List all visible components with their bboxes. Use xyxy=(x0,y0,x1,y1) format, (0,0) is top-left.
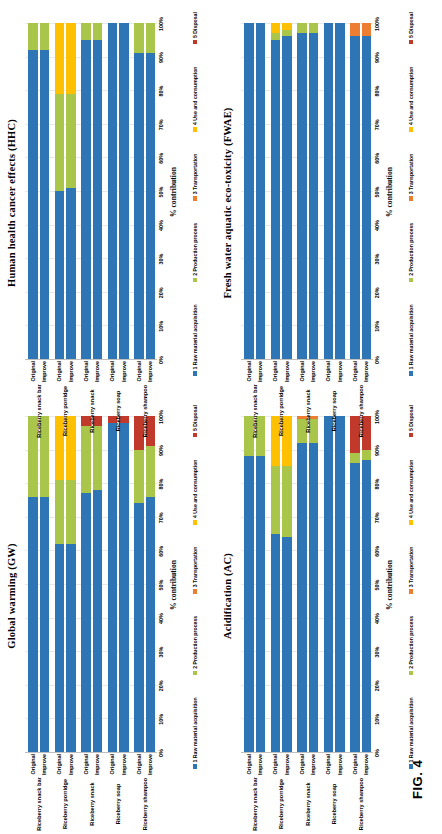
bar-segment[interactable] xyxy=(81,40,91,359)
bar-segment[interactable] xyxy=(297,443,307,752)
stacked-bar[interactable] xyxy=(309,416,319,752)
bar-segment[interactable] xyxy=(256,456,266,752)
bar-segment[interactable] xyxy=(244,23,254,359)
stacked-bar[interactable] xyxy=(271,416,281,752)
stacked-bar[interactable] xyxy=(108,23,118,359)
stacked-bar[interactable] xyxy=(324,23,334,359)
stacked-bar[interactable] xyxy=(55,416,65,752)
legend-item[interactable]: 3 Transportation xyxy=(408,547,414,594)
bar-segment[interactable] xyxy=(66,188,76,359)
stacked-bar[interactable] xyxy=(146,416,156,752)
bar-segment[interactable] xyxy=(146,446,156,496)
stacked-bar[interactable] xyxy=(28,416,38,752)
bar-segment[interactable] xyxy=(335,23,345,359)
bar-segment[interactable] xyxy=(28,50,38,359)
legend-item[interactable]: 1 Raw material acquisition xyxy=(192,304,198,376)
bar-segment[interactable] xyxy=(335,416,345,752)
bar-segment[interactable] xyxy=(244,456,254,752)
bar-segment[interactable] xyxy=(282,466,292,537)
stacked-bar[interactable] xyxy=(350,23,360,359)
stacked-bar[interactable] xyxy=(324,416,334,752)
stacked-bar[interactable] xyxy=(362,416,372,752)
bar-segment[interactable] xyxy=(297,33,307,359)
bar-segment[interactable] xyxy=(309,23,319,33)
bar-segment[interactable] xyxy=(134,53,144,359)
bar-segment[interactable] xyxy=(40,23,50,50)
bar-segment[interactable] xyxy=(271,466,281,533)
bar-segment[interactable] xyxy=(28,497,38,752)
bar-segment[interactable] xyxy=(93,23,103,40)
bar-segment[interactable] xyxy=(271,23,281,33)
bar-segment[interactable] xyxy=(146,497,156,752)
bar-segment[interactable] xyxy=(28,23,38,50)
bar-segment[interactable] xyxy=(134,23,144,53)
bar-segment[interactable] xyxy=(362,23,372,36)
bar-segment[interactable] xyxy=(350,23,360,36)
stacked-bar[interactable] xyxy=(119,416,129,752)
bar-segment[interactable] xyxy=(66,23,76,94)
legend-item[interactable]: 5 Disposal xyxy=(192,405,198,437)
bar-segment[interactable] xyxy=(40,50,50,359)
bar-segment[interactable] xyxy=(93,40,103,359)
bar-segment[interactable] xyxy=(324,23,334,359)
stacked-bar[interactable] xyxy=(55,23,65,359)
stacked-bar[interactable] xyxy=(93,416,103,752)
bar-segment[interactable] xyxy=(81,23,91,40)
bar-segment[interactable] xyxy=(40,497,50,752)
bar-segment[interactable] xyxy=(66,94,76,188)
bar-segment[interactable] xyxy=(350,36,360,359)
bar-segment[interactable] xyxy=(55,94,65,191)
legend-item[interactable]: 4 Use and consumption xyxy=(408,67,414,132)
bar-segment[interactable] xyxy=(119,23,129,359)
stacked-bar[interactable] xyxy=(309,23,319,359)
legend-item[interactable]: 5 Disposal xyxy=(192,12,198,44)
bar-segment[interactable] xyxy=(256,23,266,359)
bar-segment[interactable] xyxy=(66,544,76,752)
stacked-bar[interactable] xyxy=(66,23,76,359)
stacked-bar[interactable] xyxy=(335,23,345,359)
bar-segment[interactable] xyxy=(146,53,156,359)
bar-segment[interactable] xyxy=(362,450,372,460)
stacked-bar[interactable] xyxy=(134,416,144,752)
stacked-bar[interactable] xyxy=(244,416,254,752)
bar-segment[interactable] xyxy=(271,40,281,359)
bar-segment[interactable] xyxy=(362,460,372,752)
stacked-bar[interactable] xyxy=(40,416,50,752)
stacked-bar[interactable] xyxy=(134,23,144,359)
legend-item[interactable]: 5 Disposal xyxy=(408,405,414,437)
bar-segment[interactable] xyxy=(282,36,292,359)
bar-segment[interactable] xyxy=(66,480,76,544)
stacked-bar[interactable] xyxy=(335,416,345,752)
bar-segment[interactable] xyxy=(81,493,91,752)
legend-item[interactable]: 3 Transportation xyxy=(408,154,414,201)
stacked-bar[interactable] xyxy=(256,416,266,752)
stacked-bar[interactable] xyxy=(28,23,38,359)
legend-item[interactable]: 3 Transportation xyxy=(192,154,198,201)
bar-segment[interactable] xyxy=(282,537,292,752)
bar-segment[interactable] xyxy=(55,480,65,544)
bar-segment[interactable] xyxy=(271,534,281,752)
bar-segment[interactable] xyxy=(93,490,103,752)
bar-segment[interactable] xyxy=(134,503,144,752)
stacked-bar[interactable] xyxy=(93,23,103,359)
bar-segment[interactable] xyxy=(282,23,292,30)
stacked-bar[interactable] xyxy=(81,416,91,752)
stacked-bar[interactable] xyxy=(297,416,307,752)
legend-item[interactable]: 2 Production process xyxy=(408,223,414,283)
stacked-bar[interactable] xyxy=(282,23,292,359)
legend-item[interactable]: 4 Use and consumption xyxy=(408,460,414,525)
stacked-bar[interactable] xyxy=(66,416,76,752)
bar-segment[interactable] xyxy=(350,463,360,752)
bar-segment[interactable] xyxy=(324,416,334,752)
stacked-bar[interactable] xyxy=(271,23,281,359)
bar-segment[interactable] xyxy=(282,30,292,37)
bar-segment[interactable] xyxy=(362,36,372,359)
legend-item[interactable]: 2 Production process xyxy=(408,616,414,676)
bar-segment[interactable] xyxy=(297,23,307,33)
stacked-bar[interactable] xyxy=(350,416,360,752)
stacked-bar[interactable] xyxy=(108,416,118,752)
stacked-bar[interactable] xyxy=(256,23,266,359)
legend-item[interactable]: 5 Disposal xyxy=(408,12,414,44)
legend-item[interactable]: 2 Production process xyxy=(192,223,198,283)
bar-segment[interactable] xyxy=(309,443,319,752)
